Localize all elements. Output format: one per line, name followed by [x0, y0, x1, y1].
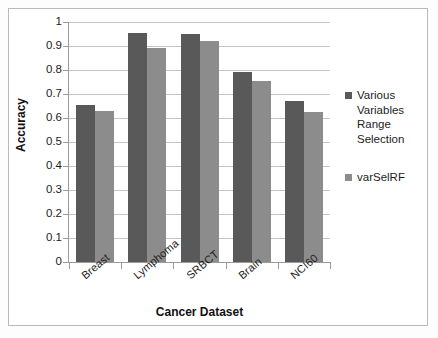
x-axis-tick-mark: [278, 263, 279, 269]
y-axis-tick-label: 0.4: [22, 160, 62, 171]
bar-breast-series-1: [95, 111, 114, 262]
bar-srbct-series-0: [181, 34, 200, 262]
x-axis-tick-mark: [69, 263, 70, 269]
y-axis-tick-label: 0: [22, 256, 62, 267]
bar-lymphoma-series-0: [128, 33, 147, 262]
y-axis-tick-label: 0.9: [22, 40, 62, 51]
x-axis-tick-mark: [121, 263, 122, 269]
legend-label-1: varSelRF: [357, 170, 427, 185]
y-axis-tick-mark: [63, 190, 69, 191]
chart-legend: Various Variables Range SelectionvarSelR…: [345, 88, 427, 209]
y-axis-tick-mark: [63, 22, 69, 23]
y-axis-tick-mark: [63, 238, 69, 239]
bar-brain-series-0: [233, 72, 252, 262]
legend-entry-1: varSelRF: [345, 170, 427, 185]
x-axis-tick-mark: [226, 263, 227, 269]
legend-label-0: Various Variables Range Selection: [357, 88, 427, 146]
y-axis-tick-label: 0.5: [22, 136, 62, 147]
bar-lymphoma-series-1: [147, 48, 166, 262]
bar-nci60-series-0: [285, 101, 304, 262]
y-axis-tick-mark: [63, 70, 69, 71]
y-axis-tick-label: 0.7: [22, 88, 62, 99]
legend-swatch-series-0: [345, 92, 352, 99]
legend-swatch-series-1: [345, 174, 352, 181]
y-axis-tick-label: 0.8: [22, 64, 62, 75]
x-axis-tick-mark: [330, 263, 331, 269]
y-axis-tick-mark: [63, 166, 69, 167]
y-axis-tick-label: 0.1: [22, 232, 62, 243]
bar-brain-series-1: [252, 81, 271, 262]
bar-breast-series-0: [76, 105, 95, 262]
bars-layer: [69, 22, 330, 262]
y-axis-tick-label: 0.2: [22, 208, 62, 219]
y-axis-tick-mark: [63, 214, 69, 215]
y-axis-tick-label: 0.6: [22, 112, 62, 123]
y-axis-tick-mark: [63, 46, 69, 47]
y-axis-title: Accuracy: [14, 80, 28, 170]
chart-figure: 10.90.80.70.60.50.40.30.20.10 BreastLymp…: [0, 0, 438, 338]
y-axis-tick-mark: [63, 142, 69, 143]
legend-entry-0: Various Variables Range Selection: [345, 88, 427, 146]
y-axis-tick-mark: [63, 118, 69, 119]
bar-srbct-series-1: [200, 41, 219, 262]
x-axis-title: Cancer Dataset: [69, 305, 330, 319]
y-axis-tick-mark: [63, 94, 69, 95]
y-axis-tick-label: 1: [22, 16, 62, 27]
y-axis-tick-label: 0.3: [22, 184, 62, 195]
x-axis-tick-mark: [173, 263, 174, 269]
bar-nci60-series-1: [304, 112, 323, 262]
